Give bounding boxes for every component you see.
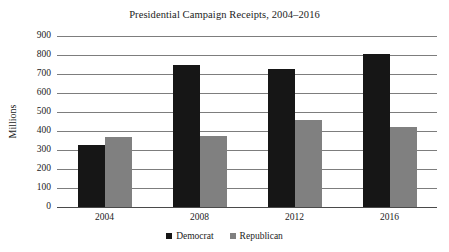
legend-label: Democrat <box>176 231 213 241</box>
y-axis-tick-label: 200 <box>7 164 51 174</box>
y-axis-tick-labels: 9008007006005004003002001000 <box>0 36 51 207</box>
chart-legend: DemocratRepublican <box>0 231 449 241</box>
y-axis-tick-label: 900 <box>7 31 51 41</box>
y-axis-tick-label: 0 <box>7 202 51 212</box>
legend-item-republican: Republican <box>230 231 283 241</box>
legend-swatch-icon <box>230 233 236 239</box>
y-axis-tick-label: 600 <box>7 88 51 98</box>
x-axis-line <box>57 207 437 208</box>
bar-chart-figure: Presidential Campaign Receipts, 2004–201… <box>0 0 449 252</box>
legend-item-democrat: Democrat <box>166 231 213 241</box>
chart-title: Presidential Campaign Receipts, 2004–201… <box>0 9 449 20</box>
bar-republican-2004 <box>105 137 132 207</box>
y-axis-tick-label: 700 <box>7 69 51 79</box>
x-axis-tick-label: 2004 <box>95 212 114 222</box>
bar-democrat-2016 <box>363 54 390 207</box>
y-axis-tick-label: 100 <box>7 183 51 193</box>
bar-democrat-2004 <box>78 145 105 207</box>
y-axis-tick-label: 800 <box>7 50 51 60</box>
plot-area <box>57 36 437 207</box>
legend-label: Republican <box>240 231 283 241</box>
y-axis-tick-label: 300 <box>7 145 51 155</box>
bar-republican-2016 <box>390 127 417 207</box>
x-axis-tick-label: 2012 <box>285 212 304 222</box>
x-axis-tick-label: 2008 <box>190 212 209 222</box>
gridline <box>57 36 437 37</box>
bar-democrat-2008 <box>173 65 200 207</box>
bar-democrat-2012 <box>268 69 295 207</box>
bar-republican-2012 <box>295 120 322 207</box>
x-axis-tick-label: 2016 <box>380 212 399 222</box>
y-axis-tick-label: 400 <box>7 126 51 136</box>
legend-swatch-icon <box>166 233 172 239</box>
bar-republican-2008 <box>200 136 227 207</box>
y-axis-tick-label: 500 <box>7 107 51 117</box>
